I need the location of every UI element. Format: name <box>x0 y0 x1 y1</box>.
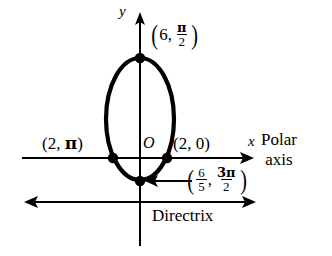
point-label-top-vertex: ( 6 , π 2 ) <box>150 21 199 49</box>
point-right-vertex <box>162 153 172 163</box>
polar-conic-figure: y x O ( 6 , π 2 ) (2, π) (2, 0) ( 6 5 <box>0 0 332 256</box>
point-label-left-vertex: (2, π) <box>42 135 83 152</box>
point-label-top-vertex-math: ( 6 , π 2 ) <box>150 21 199 49</box>
right-paren: ) <box>240 168 247 192</box>
y-axis-label: y <box>119 4 126 19</box>
origin-label: O <box>143 135 155 151</box>
right-vertex-theta: 0 <box>196 134 205 153</box>
bottom-vertex-theta-denominator: 2 <box>221 179 232 193</box>
bottom-vertex-theta-numerator: 3π <box>215 166 238 179</box>
bottom-vertex-theta-fraction: 3π 2 <box>215 166 238 194</box>
top-vertex-theta-numerator: π <box>175 21 189 34</box>
point-top-vertex <box>135 53 145 63</box>
polar-axis-caption-line2: axis <box>261 150 297 170</box>
x-axis-label: x <box>248 134 255 149</box>
top-vertex-r: 6 <box>159 26 168 43</box>
point-label-right-vertex: (2, 0) <box>173 135 210 152</box>
top-vertex-theta-denominator: 2 <box>177 34 188 48</box>
polar-axis-caption-line1: Polar <box>261 130 297 150</box>
right-paren: ) <box>191 23 198 47</box>
bottom-vertex-comma: , <box>208 171 214 188</box>
right-vertex-close: ) <box>204 134 210 153</box>
left-paren: ( <box>151 23 158 47</box>
top-vertex-comma: , <box>168 26 174 43</box>
right-vertex-r: 2 <box>179 134 188 153</box>
right-vertex-comma: , <box>187 134 196 153</box>
bottom-vertex-r-denominator: 5 <box>196 179 207 193</box>
left-vertex-comma: , <box>56 134 65 153</box>
directrix-label: Directrix <box>152 207 213 224</box>
point-label-bottom-vertex: ( 6 5 , 3π 2 ) <box>186 166 248 194</box>
bottom-vertex-r-fraction: 6 5 <box>196 166 207 194</box>
point-left-vertex <box>108 153 118 163</box>
polar-axis-caption: Polar axis <box>261 130 297 169</box>
top-vertex-theta-fraction: π 2 <box>175 21 189 49</box>
left-vertex-theta: π <box>65 133 77 153</box>
left-vertex-close: ) <box>77 134 83 153</box>
left-paren: ( <box>187 168 194 192</box>
point-label-bottom-vertex-math: ( 6 5 , 3π 2 ) <box>186 166 248 194</box>
left-vertex-r: 2 <box>48 134 57 153</box>
point-bottom-vertex <box>135 176 145 186</box>
bottom-vertex-r-numerator: 6 <box>196 166 207 179</box>
